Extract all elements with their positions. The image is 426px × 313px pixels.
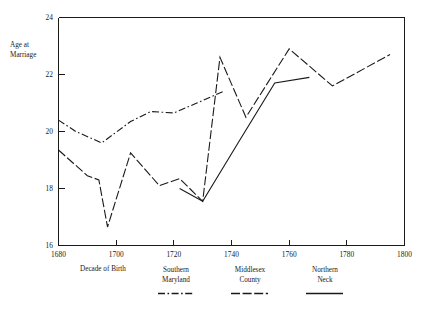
age-at-marriage-line-chart: 24 22 20 18 16 1680 1700 1720 1740 1760 … xyxy=(0,0,426,313)
plot-frame xyxy=(59,18,405,246)
x-ticklabel-1800: 1800 xyxy=(397,250,412,259)
y-ticklabel-24: 24 xyxy=(46,13,54,22)
chart-legend: Southern Maryland Middlesex County North… xyxy=(158,266,343,294)
x-ticklabel-1740: 1740 xyxy=(224,250,239,259)
y-ticklabel-20: 20 xyxy=(46,127,54,136)
series-group xyxy=(59,49,391,227)
legend-entry-northern-neck: Northern Neck xyxy=(306,266,343,294)
legend-label-northern-neck-line2: Neck xyxy=(317,276,333,284)
y-axis-tick-labels: 24 22 20 18 16 xyxy=(46,13,54,250)
x-axis-label: Decade of Birth xyxy=(80,265,126,273)
x-ticklabel-1760: 1760 xyxy=(282,250,297,259)
legend-entry-southern-maryland: Southern Maryland xyxy=(158,266,194,294)
legend-entry-middlesex-county: Middlesex County xyxy=(231,266,268,294)
series-line-southern-maryland xyxy=(59,92,223,143)
y-axis-ticks xyxy=(59,18,65,246)
x-axis-tick-labels: 1680 1700 1720 1740 1760 1780 1800 xyxy=(51,250,412,259)
legend-label-southern-maryland-line2: Maryland xyxy=(162,276,190,284)
legend-label-middlesex-county-line2: County xyxy=(239,276,261,284)
axis-titles: Age at Marriage Decade of Birth xyxy=(10,41,126,273)
series-line-northern-neck xyxy=(180,77,310,201)
x-ticklabel-1720: 1720 xyxy=(166,250,181,259)
legend-label-middlesex-county-line1: Middlesex xyxy=(235,266,266,274)
axes-box xyxy=(59,18,405,246)
y-ticklabel-16: 16 xyxy=(46,241,54,250)
x-axis-ticks xyxy=(59,240,405,246)
legend-label-northern-neck-line1: Northern xyxy=(312,266,338,274)
legend-label-southern-maryland-line1: Southern xyxy=(163,266,189,274)
y-ticklabel-18: 18 xyxy=(46,184,54,193)
chart-figure: 24 22 20 18 16 1680 1700 1720 1740 1760 … xyxy=(0,0,426,313)
y-axis-label-line1: Age at xyxy=(10,41,29,49)
x-ticklabel-1780: 1780 xyxy=(339,250,354,259)
x-ticklabel-1680: 1680 xyxy=(51,250,66,259)
y-axis-label-line2: Marriage xyxy=(10,51,36,59)
x-ticklabel-1700: 1700 xyxy=(109,250,124,259)
y-ticklabel-22: 22 xyxy=(46,70,54,79)
